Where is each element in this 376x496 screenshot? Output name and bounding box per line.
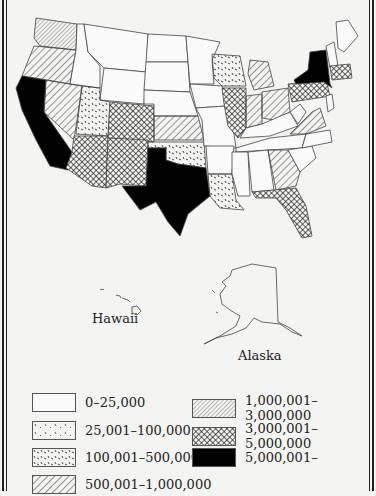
solid-swatch-icon <box>192 448 236 467</box>
legend-item-3: 500,001–1,000,000 <box>32 475 211 494</box>
legend-item-6: 5,000,001– <box>192 448 318 467</box>
legend-item-0: 0–25,000 <box>32 393 145 412</box>
legend-label: 0–25,000 <box>85 395 145 410</box>
state-michigan <box>248 60 274 90</box>
state-new-jersey <box>326 94 334 112</box>
state-kansas <box>154 116 204 140</box>
state-washington <box>34 18 77 50</box>
state-colorado <box>108 102 154 142</box>
legend-label: 1,000,001–3,000,000 <box>245 393 370 423</box>
legend-label: 500,001–1,000,000 <box>85 477 211 492</box>
state-florida <box>252 188 312 238</box>
state-new-york <box>294 50 332 88</box>
legend-item-4: 1,000,001–3,000,000 <box>192 393 370 423</box>
crosshatch-swatch-icon <box>192 427 236 446</box>
state-north-dakota <box>146 34 188 62</box>
wide-hatch-swatch-icon <box>32 475 76 494</box>
dense-dash-swatch-icon <box>32 448 76 467</box>
state-wisconsin <box>212 54 246 86</box>
legend-item-2: 100,001–500,000 <box>32 448 199 467</box>
state-southern-new-england <box>330 64 352 80</box>
state-arizona <box>66 136 108 188</box>
state-arkansas <box>206 146 234 174</box>
fine-hatch-swatch-icon <box>192 399 236 418</box>
hawaii-label: Hawaii <box>92 311 138 326</box>
legend-label: 3,000,001–5,000,000 <box>245 421 370 451</box>
state-new-mexico <box>106 138 148 188</box>
state-iowa <box>190 84 226 108</box>
legend-label: 25,001–100,000 <box>85 423 191 438</box>
alaska-inset <box>204 264 302 344</box>
state-south-dakota <box>144 62 190 92</box>
state-wyoming <box>100 68 146 104</box>
legend-item-5: 3,000,001–5,000,000 <box>192 421 370 451</box>
alaska-label: Alaska <box>238 348 282 363</box>
sparse-dash-swatch-icon <box>32 421 76 440</box>
state-indiana <box>246 94 262 128</box>
legend-label: 100,001–500,000 <box>85 450 199 465</box>
legend-label: 5,000,001– <box>245 450 318 465</box>
blank-swatch-icon <box>32 393 76 412</box>
state-maine <box>336 20 358 52</box>
legend-item-1: 25,001–100,000 <box>32 421 191 440</box>
